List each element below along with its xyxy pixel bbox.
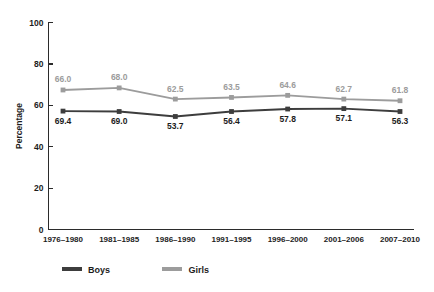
legend-swatch-boys — [62, 267, 82, 272]
data-point-label: 69.4 — [55, 116, 72, 126]
y-tick-label: 100 — [29, 18, 43, 28]
line-chart: 020406080100 1976–19801981–19851986–1990… — [0, 0, 434, 292]
y-tick-label: 40 — [34, 142, 44, 152]
data-point-label: 57.1 — [336, 113, 353, 123]
data-point-marker — [229, 95, 234, 100]
data-point-label: 53.7 — [167, 121, 184, 131]
legend-swatch-girls — [162, 267, 182, 272]
legend-label-boys: Boys — [88, 265, 110, 275]
y-axis-title: Percentage — [14, 103, 24, 149]
y-tick-label: 60 — [34, 100, 44, 110]
data-point-label: 63.5 — [223, 82, 240, 92]
data-point-marker — [61, 88, 66, 93]
data-point-label: 62.7 — [336, 84, 353, 94]
data-labels-layer: 69.469.053.756.457.857.156.366.068.062.5… — [55, 72, 409, 131]
y-tick-label: 0 — [39, 225, 44, 235]
y-tick-label: 20 — [34, 183, 44, 193]
x-tick-label: 1991–1995 — [211, 235, 252, 244]
y-axis-ticks: 020406080100 — [29, 18, 53, 235]
data-point-marker — [341, 97, 346, 102]
legend-label-girls: Girls — [188, 265, 209, 275]
data-point-marker — [285, 107, 290, 112]
data-point-marker — [117, 109, 122, 114]
data-point-marker — [229, 109, 234, 114]
data-point-marker — [173, 97, 178, 102]
data-point-label: 64.6 — [279, 80, 296, 90]
x-tick-label: 1996–2000 — [268, 235, 309, 244]
chart-canvas: 020406080100 1976–19801981–19851986–1990… — [0, 0, 434, 292]
data-point-marker — [398, 98, 403, 103]
data-point-marker — [61, 109, 66, 114]
data-point-label: 62.5 — [167, 84, 184, 94]
data-point-label: 68.0 — [111, 72, 128, 82]
data-point-label: 56.4 — [223, 116, 240, 126]
data-point-label: 56.3 — [392, 116, 409, 126]
data-point-label: 61.8 — [392, 85, 409, 95]
x-tick-label: 2007–2010 — [380, 235, 421, 244]
x-axis-ticks: 1976–19801981–19851986–19901991–19951996… — [43, 235, 421, 244]
x-tick-label: 1981–1985 — [99, 235, 140, 244]
data-point-marker — [341, 106, 346, 111]
x-tick-label: 2001–2006 — [324, 235, 365, 244]
data-point-marker — [398, 109, 403, 114]
data-point-marker — [117, 86, 122, 91]
chart-legend: BoysGirls — [62, 265, 209, 275]
data-point-label: 69.0 — [111, 116, 128, 126]
x-tick-label: 1976–1980 — [43, 235, 84, 244]
data-point-marker — [173, 114, 178, 119]
y-tick-label: 80 — [34, 59, 44, 69]
data-point-marker — [285, 93, 290, 98]
x-tick-label: 1986–1990 — [155, 235, 196, 244]
data-point-label: 66.0 — [55, 74, 72, 84]
data-point-label: 57.8 — [279, 114, 296, 124]
